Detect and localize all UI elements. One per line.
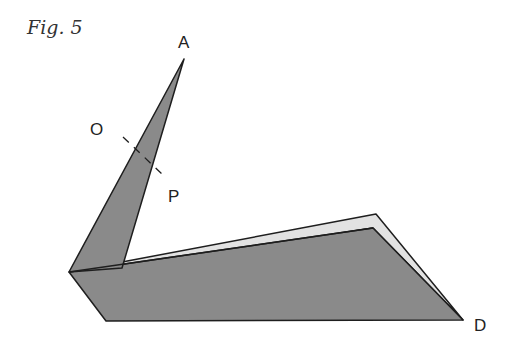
folded-arm [69,59,184,272]
point-label-d: D [474,316,486,336]
point-label-a: A [178,33,189,53]
point-label-p: P [168,187,179,207]
folded-paper-diagram [0,0,512,347]
point-label-o: O [90,120,103,140]
